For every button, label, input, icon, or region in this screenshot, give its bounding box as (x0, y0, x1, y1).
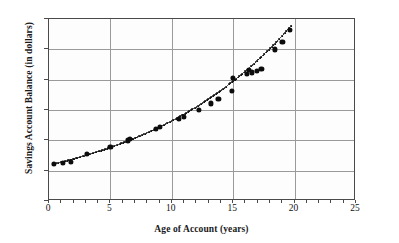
y-gridline (49, 140, 354, 141)
x-axis-minor-tick (146, 200, 147, 203)
trendline-dot (277, 40, 279, 42)
x-axis-minor-tick (73, 200, 74, 203)
x-axis-minor-tick (97, 200, 98, 203)
x-axis-minor-tick (257, 200, 258, 203)
x-axis-minor-tick (244, 200, 245, 203)
data-point (196, 107, 201, 112)
x-axis-tick-label: 15 (214, 203, 250, 213)
data-point (69, 159, 74, 164)
x-axis-tick-label: 20 (276, 203, 312, 213)
y-gridline (49, 171, 354, 172)
x-axis-minor-tick (281, 200, 282, 203)
data-point (84, 151, 89, 156)
x-axis-minor-tick (330, 200, 331, 203)
x-axis-title: Age of Account (years) (48, 224, 355, 234)
x-axis-minor-tick (318, 200, 319, 203)
x-axis-minor-tick (183, 200, 184, 203)
x-axis-minor-tick (171, 200, 172, 203)
y-axis-tick-mark (44, 48, 48, 49)
scatter-chart-figure: Savings Account Balance (in dollars) Age… (0, 0, 399, 243)
x-axis-minor-tick (159, 200, 160, 203)
x-axis-tick-label: 0 (30, 203, 66, 213)
plot-area (48, 18, 355, 200)
x-axis-minor-tick (232, 200, 233, 203)
x-axis-minor-tick (269, 200, 270, 203)
y-axis-tick-mark (44, 170, 48, 171)
x-axis-minor-tick (60, 200, 61, 203)
data-point (280, 39, 285, 44)
x-axis-minor-tick (355, 200, 356, 203)
data-point (259, 66, 264, 71)
x-axis-minor-tick (122, 200, 123, 203)
data-point (181, 114, 186, 119)
data-point (287, 27, 292, 32)
y-axis-tick-mark (44, 18, 48, 19)
data-point (209, 101, 214, 106)
y-axis-title: Savings Account Balance (in dollars) (24, 8, 34, 188)
trendline-dot (284, 32, 286, 34)
y-gridline (49, 80, 354, 81)
x-axis-tick-label: 10 (153, 203, 189, 213)
trendline-dot (283, 34, 285, 36)
x-axis-minor-tick (306, 200, 307, 203)
data-point (157, 124, 162, 129)
x-gridline (295, 19, 296, 199)
x-axis-minor-tick (208, 200, 209, 203)
x-axis-minor-tick (195, 200, 196, 203)
data-point (51, 161, 56, 166)
x-axis-minor-tick (220, 200, 221, 203)
trendline-dot (275, 41, 277, 43)
x-gridline (233, 19, 234, 199)
data-point (108, 145, 113, 150)
x-axis-tick-label: 25 (337, 203, 373, 213)
data-point (216, 96, 221, 101)
x-axis-minor-tick (294, 200, 295, 203)
x-gridline (172, 19, 173, 199)
y-gridline (49, 49, 354, 50)
data-point (60, 160, 65, 165)
x-axis-minor-tick (343, 200, 344, 203)
x-axis-tick-label: 5 (91, 203, 127, 213)
x-axis-minor-tick (109, 200, 110, 203)
y-axis-tick-mark (44, 79, 48, 80)
x-gridline (110, 19, 111, 199)
x-axis-minor-tick (134, 200, 135, 203)
y-gridline (49, 110, 354, 111)
trendline-dot (281, 35, 283, 37)
x-axis-minor-tick (85, 200, 86, 203)
data-point (272, 47, 277, 52)
x-axis-minor-tick (48, 200, 49, 203)
y-axis-tick-mark (44, 139, 48, 140)
y-axis-tick-mark (44, 109, 48, 110)
